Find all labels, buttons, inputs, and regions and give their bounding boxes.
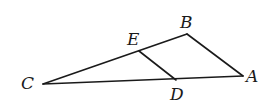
- segment-ba: [187, 34, 243, 76]
- segment-cb: [43, 34, 187, 84]
- label-a: A: [244, 66, 258, 86]
- label-b: B: [179, 12, 193, 32]
- label-c: C: [21, 73, 34, 93]
- segment-ed: [139, 51, 176, 80]
- label-e: E: [126, 29, 140, 49]
- label-d: D: [169, 84, 184, 104]
- triangle-diagram: C B A E D: [0, 0, 280, 112]
- segment-ac: [43, 76, 243, 84]
